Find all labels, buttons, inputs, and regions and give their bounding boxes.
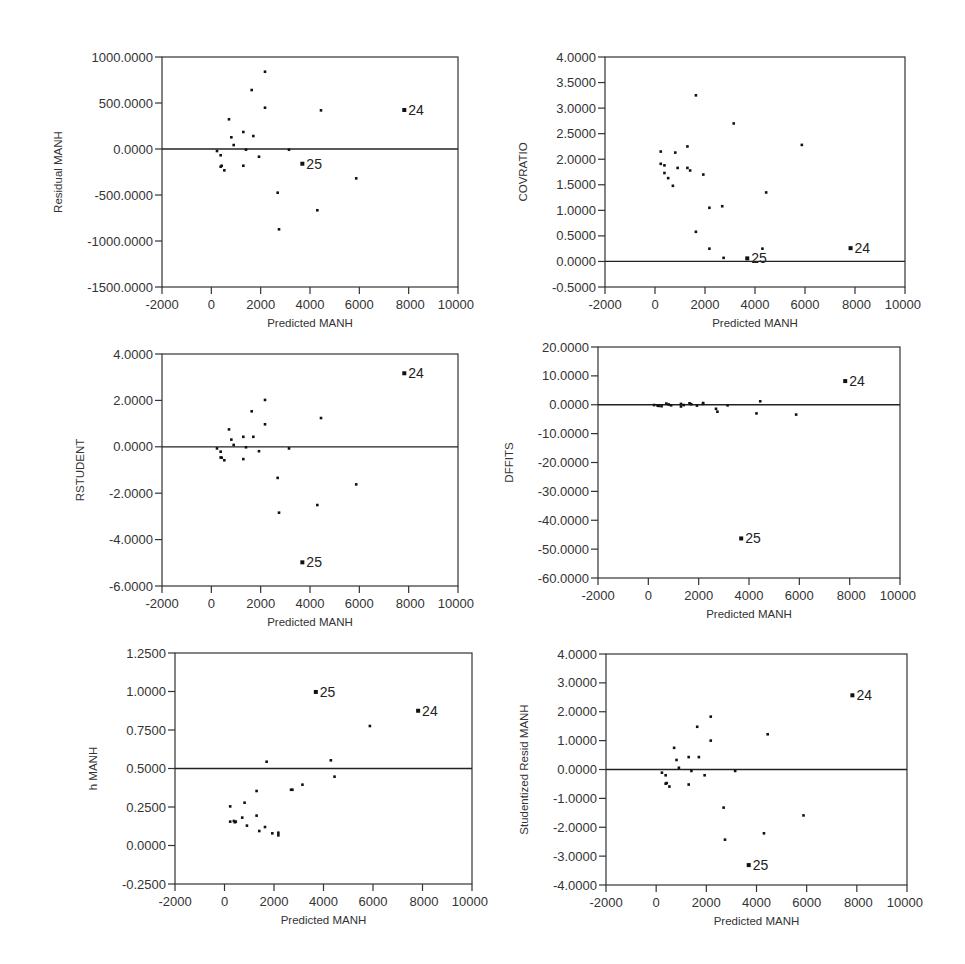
data-point [232, 144, 235, 147]
labeled-data-point [300, 162, 304, 166]
data-point [702, 403, 705, 406]
y-tick-label: -30.0000 [538, 484, 589, 499]
data-point [763, 832, 766, 835]
x-axis-title: Predicted MANH [706, 608, 792, 620]
y-tick-label: -1500.0000 [87, 280, 153, 295]
y-tick-label: 2.0000 [557, 704, 597, 719]
x-tick-label: -2000 [158, 894, 191, 909]
y-tick-label: -4.0000 [553, 878, 597, 893]
data-point [708, 206, 711, 209]
y-tick-label: -60.0000 [538, 571, 589, 586]
x-tick-label: 0 [208, 596, 215, 611]
data-point [682, 404, 685, 407]
y-tick-label: 10.0000 [542, 368, 589, 383]
data-point [242, 458, 245, 461]
data-point [252, 135, 255, 138]
data-point [276, 191, 279, 194]
data-point [703, 774, 706, 777]
x-tick-label: 2000 [684, 588, 713, 603]
data-point [766, 733, 769, 736]
data-point [255, 790, 258, 793]
data-point [687, 756, 690, 759]
data-point [277, 834, 280, 837]
data-point [726, 404, 729, 407]
x-tick-label: 2000 [246, 596, 275, 611]
data-point [265, 760, 268, 763]
data-point [219, 154, 222, 157]
x-tick-label: 0 [208, 297, 215, 312]
observation-label: 25 [753, 857, 769, 873]
chart-covratio: 4.00003.50003.00002.50002.00001.50001.00… [517, 50, 921, 330]
y-tick-label: 2.5000 [556, 126, 596, 141]
labeled-data-point [849, 246, 853, 250]
y-tick-label: 1.2500 [126, 646, 166, 661]
data-point [686, 167, 689, 170]
data-point [664, 774, 667, 777]
y-tick-label: 1.0000 [556, 203, 596, 218]
data-point [277, 831, 280, 834]
data-point [316, 209, 319, 212]
labeled-data-point [300, 560, 304, 564]
data-point [229, 805, 232, 808]
data-point [695, 231, 698, 234]
x-tick-label: -2000 [145, 297, 178, 312]
x-tick-label: 10000 [438, 596, 474, 611]
y-axis-title: Residual MANH [52, 131, 64, 213]
x-tick-label: 2000 [260, 894, 289, 909]
y-axis-title: DFFITS [503, 442, 515, 483]
data-point [220, 456, 223, 459]
data-point [678, 766, 681, 769]
x-tick-label: 10000 [885, 297, 921, 312]
data-point [696, 725, 699, 728]
x-tick-label: -2000 [588, 297, 621, 312]
data-point [245, 446, 248, 449]
data-point [709, 715, 712, 718]
x-tick-label: 4000 [296, 596, 325, 611]
data-point [264, 399, 267, 402]
data-point [242, 164, 245, 167]
labeled-data-point [747, 863, 751, 867]
observation-label: 24 [408, 365, 424, 381]
y-tick-label: 0.0000 [549, 397, 589, 412]
data-point [230, 136, 233, 139]
observation-label: 24 [422, 703, 438, 719]
y-tick-label: 1.0000 [126, 684, 166, 699]
observation-label: 24 [408, 102, 424, 118]
labeled-data-point [739, 536, 743, 540]
data-point [722, 257, 725, 260]
data-point [755, 412, 758, 415]
data-point [680, 405, 683, 408]
x-tick-label: 4000 [742, 895, 771, 910]
x-tick-label: 2000 [692, 895, 721, 910]
y-tick-label: -6.0000 [109, 579, 153, 594]
diagnostic-plots-canvas: 1000.0000500.00000.0000-500.0000-1000.00… [0, 0, 965, 964]
x-tick-label: -2000 [589, 895, 622, 910]
data-point [288, 148, 291, 151]
data-point [765, 191, 768, 194]
x-tick-label: 4000 [309, 894, 338, 909]
data-point [689, 169, 692, 172]
data-point [663, 164, 666, 167]
y-tick-label: 0.0000 [113, 142, 153, 157]
data-point [216, 150, 219, 153]
x-tick-label: 8000 [410, 894, 439, 909]
data-point [241, 816, 244, 819]
data-point [271, 832, 274, 835]
data-point [687, 783, 690, 786]
data-point [663, 172, 666, 175]
x-tick-label: 6000 [792, 895, 821, 910]
data-point [220, 164, 223, 167]
y-tick-label: -0.5000 [552, 280, 596, 295]
data-point [232, 444, 235, 447]
data-point [661, 771, 664, 774]
y-tick-label: 2.0000 [556, 152, 596, 167]
x-axis-title: Predicted MANH [714, 915, 800, 927]
y-tick-label: 500.0000 [99, 96, 153, 111]
data-point [320, 109, 323, 112]
x-tick-label: 10000 [880, 588, 916, 603]
y-tick-label: 2.0000 [113, 393, 153, 408]
data-point [676, 167, 679, 170]
y-tick-label: -20.0000 [538, 455, 589, 470]
chart-studentized-resid: 4.00003.00002.00001.00000.0000-1.0000-2.… [518, 647, 923, 928]
y-tick-label: 0.0000 [113, 439, 153, 454]
